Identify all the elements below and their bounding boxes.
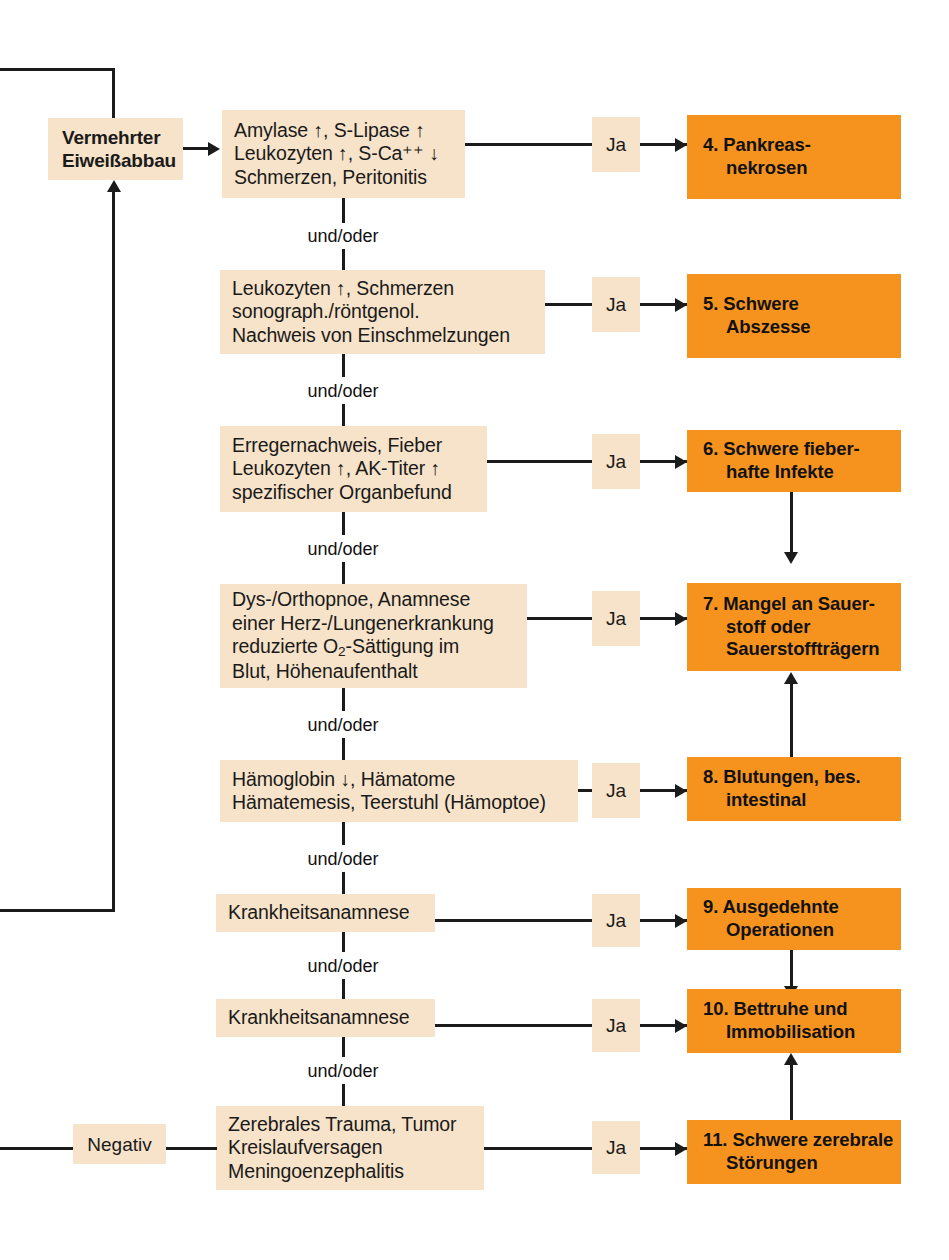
result-line: 7. Mangel an Sauer- <box>703 593 901 616</box>
start-node-line-1: Vermehrter <box>62 126 183 149</box>
result-line: 8. Blutungen, bes. <box>703 766 901 789</box>
undoder-line-upper-10-11 <box>342 1037 345 1057</box>
yes-label: Ja <box>606 135 626 154</box>
start-node-line-2: Eiweißabbau <box>62 149 183 172</box>
criteria-line: Hämoglobin ↓, Hämatome <box>232 768 578 791</box>
result-box-11-schwere-zerebrale-stoerungen[interactable]: 11. Schwere zerebrale Störungen <box>687 1120 901 1184</box>
undoder-line-upper-9-10 <box>342 932 345 952</box>
result-box-6-schwere-fieberhafte-infekte[interactable]: 6. Schwere fieber- hafte Infekte <box>687 430 901 492</box>
result-line: hafte Infekte <box>703 461 901 484</box>
criteria-box-row-5[interactable]: Leukozyten ↑, Schmerzen sonograph./röntg… <box>220 270 545 354</box>
undoder-line-lower-5-6 <box>342 404 345 426</box>
criteria-line: spezifischer Organbefund <box>232 481 487 504</box>
yes-node-row-6[interactable]: Ja <box>592 434 640 489</box>
undoder-label-8-9: und/oder <box>307 849 378 870</box>
criteria-line: Erregernachweis, Fieber <box>232 434 487 457</box>
criteria-box-row-9[interactable]: Krankheitsanamnese <box>216 894 435 932</box>
yes-node-row-5[interactable]: Ja <box>592 277 640 332</box>
ja-to-result-arrowhead-row-5 <box>675 298 687 312</box>
yes-label: Ja <box>606 1016 626 1035</box>
undoder-label-9-10: und/oder <box>307 956 378 977</box>
row-6-to-ja-line <box>487 460 593 463</box>
result-line: 9. Ausgedehnte <box>703 896 901 919</box>
yes-node-row-10[interactable]: Ja <box>592 999 640 1052</box>
result-line: 11. Schwere zerebrale <box>703 1129 901 1152</box>
result-11-to-10-arrowhead <box>784 1053 798 1065</box>
ja-to-result-arrowhead-row-7 <box>675 612 687 626</box>
flowchart-canvas: Vermehrter Eiweißabbau Amylase ↑, S-Lipa… <box>0 0 949 1260</box>
yes-label: Ja <box>606 609 626 628</box>
undoder-label-6-7: und/oder <box>307 539 378 560</box>
negative-label: Negativ <box>87 1135 151 1154</box>
yes-label: Ja <box>606 911 626 930</box>
result-box-7-mangel-an-sauerstoff[interactable]: 7. Mangel an Sauer- stoff oder Sauerstof… <box>687 583 901 671</box>
result-6-to-7-line <box>790 492 793 555</box>
yes-node-row-7[interactable]: Ja <box>592 591 640 646</box>
yes-label: Ja <box>606 295 626 314</box>
result-line: intestinal <box>703 789 901 812</box>
yes-node-row-8[interactable]: Ja <box>592 763 640 818</box>
criteria-line: einer Herz-/Lungenerkrankung <box>232 612 527 635</box>
ja-to-result-arrowhead-row-10 <box>675 1019 687 1033</box>
undoder-label-10-11: und/oder <box>307 1061 378 1082</box>
criteria-box-row-11[interactable]: Zerebrales Trauma, Tumor Kreislaufversag… <box>216 1106 484 1190</box>
undoder-line-lower-6-7 <box>342 562 345 584</box>
yes-node-row-11[interactable]: Ja <box>592 1121 640 1174</box>
row-8-to-ja-line <box>578 789 593 792</box>
undoder-line-lower-7-8 <box>342 738 345 760</box>
undoder-line-upper-6-7 <box>342 512 345 535</box>
start-to-row4-line <box>183 147 210 150</box>
criteria-line: Kreislaufversagen <box>228 1136 484 1159</box>
negativ-left-line <box>0 1147 74 1150</box>
criteria-line: Krankheitsanamnese <box>228 1006 435 1029</box>
criteria-line: Leukozyten ↑, Schmerzen <box>232 277 545 300</box>
ja-to-result-arrowhead-row-8 <box>675 784 687 798</box>
undoder-label-7-8: und/oder <box>307 715 378 736</box>
criteria-line: Leukozyten ↑, S-Ca⁺⁺ ↓ <box>234 142 465 165</box>
yes-node-row-9[interactable]: Ja <box>592 894 640 947</box>
yes-label: Ja <box>606 452 626 471</box>
result-box-10-bettruhe-immobilisation[interactable]: 10. Bettruhe und Immobilisation <box>687 989 901 1053</box>
criteria-line: Schmerzen, Peritonitis <box>234 166 465 189</box>
start-node-vermehrter-eiweissabbau[interactable]: Vermehrter Eiweißabbau <box>48 118 183 180</box>
result-line: 10. Bettruhe und <box>703 998 901 1021</box>
criteria-line: Dys-/Orthopnoe, Anamnese <box>232 588 527 611</box>
result-line: Störungen <box>703 1152 901 1175</box>
criteria-box-row-7[interactable]: Dys-/Orthopnoe, Anamnese einer Herz-/Lun… <box>220 584 527 688</box>
result-line: stoff oder <box>703 616 901 639</box>
criteria-line: Blut, Höhenaufenthalt <box>232 660 527 683</box>
undoder-label-4-5: und/oder <box>307 226 378 247</box>
row-5-to-ja-line <box>545 303 593 306</box>
result-box-8-blutungen-intestinal[interactable]: 8. Blutungen, bes. intestinal <box>687 757 901 821</box>
criteria-box-row-6[interactable]: Erregernachweis, Fieber Leukozyten ↑, AK… <box>220 426 487 512</box>
loop-bottom-horizontal-line <box>0 909 115 912</box>
result-box-9-ausgedehnte-operationen[interactable]: 9. Ausgedehnte Operationen <box>687 888 901 950</box>
result-6-to-7-arrowhead <box>784 552 798 564</box>
undoder-line-lower-10-11 <box>342 1084 345 1106</box>
ja-to-result-arrowhead-row-9 <box>675 914 687 928</box>
ja-to-result-arrowhead-row-11 <box>675 1142 687 1156</box>
negative-node[interactable]: Negativ <box>73 1124 166 1164</box>
yes-label: Ja <box>606 1138 626 1157</box>
criteria-box-row-10[interactable]: Krankheitsanamnese <box>216 999 435 1037</box>
undoder-line-lower-8-9 <box>342 872 345 894</box>
result-box-4-pankreasnekrosen[interactable]: 4. Pankreas- nekrosen <box>687 115 901 199</box>
undoder-line-upper-7-8 <box>342 688 345 711</box>
negativ-to-row-11-line <box>166 1147 217 1150</box>
row-7-to-ja-line <box>527 617 593 620</box>
criteria-line: Nachweis von Einschmelzungen <box>232 324 545 347</box>
criteria-box-row-8[interactable]: Hämoglobin ↓, Hämatome Hämatemesis, Teer… <box>220 760 578 822</box>
result-line: Abszesse <box>703 316 901 339</box>
undoder-line-upper-4-5 <box>342 198 345 223</box>
result-9-to-10-line <box>790 950 793 989</box>
loop-top-horizontal-line <box>0 68 115 71</box>
yes-node-row-4[interactable]: Ja <box>592 117 640 172</box>
result-8-to-7-arrowhead <box>784 672 798 684</box>
criteria-box-row-4[interactable]: Amylase ↑, S-Lipase ↑ Leukozyten ↑, S-Ca… <box>222 110 465 198</box>
result-11-to-10-line <box>790 1065 793 1120</box>
criteria-line: Krankheitsanamnese <box>228 901 435 924</box>
result-box-5-schwere-abszesse[interactable]: 5. Schwere Abszesse <box>687 274 901 358</box>
result-line: nekrosen <box>703 157 901 180</box>
result-8-to-7-line <box>790 683 793 757</box>
criteria-line: Zerebrales Trauma, Tumor <box>228 1113 484 1136</box>
